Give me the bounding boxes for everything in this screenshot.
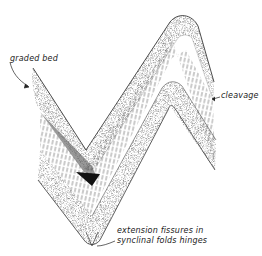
- graded-bed-leader: [10, 62, 28, 86]
- extension-fissures-label-line2: synclinal folds hinges: [117, 236, 207, 245]
- fold-diagram: graded bed cleavage extension fissures i…: [0, 0, 262, 256]
- extension-leader: [97, 241, 115, 246]
- extension-fissures-label-line1: extension fissures in: [117, 226, 204, 235]
- graded-bed-label: graded bed: [10, 54, 58, 63]
- cleavage-label: cleavage: [221, 91, 259, 100]
- fold-drawing: [0, 0, 262, 256]
